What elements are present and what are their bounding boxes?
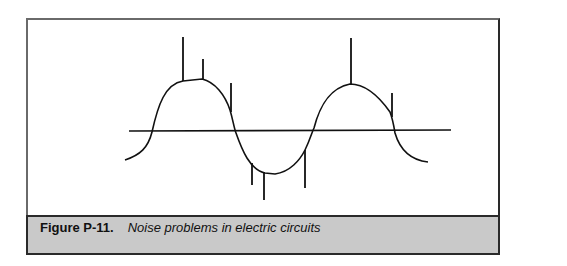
sine-wave [125, 79, 428, 174]
figure-caption: Figure P-11.Noise problems in electric c… [26, 215, 500, 255]
figure-label: Figure P-11. [40, 220, 114, 235]
figure-title: Noise problems in electric circuits [128, 220, 321, 235]
noise-spikes [183, 37, 392, 200]
baseline [129, 130, 451, 131]
